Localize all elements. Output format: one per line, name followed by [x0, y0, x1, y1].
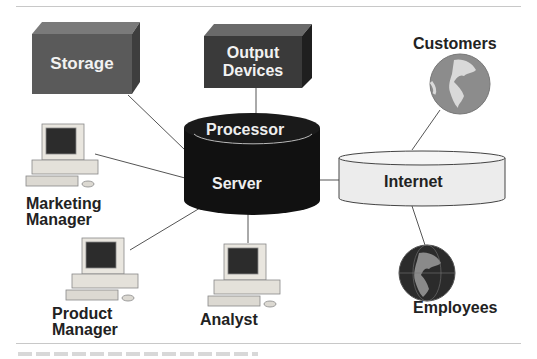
customers-globe-icon	[428, 52, 492, 116]
internet-cylinder: Internet	[338, 150, 506, 208]
storage-label: Storage	[50, 55, 113, 74]
output-label-line2: Devices	[223, 62, 284, 80]
processor-label: Processor	[206, 122, 284, 138]
analyst-label: Analyst	[200, 312, 258, 328]
storage-box: Storage	[28, 22, 140, 94]
analyst-computer-icon	[200, 242, 284, 314]
product-manager-label-line2: Manager	[52, 322, 118, 338]
product-manager-label-line1: Product	[52, 306, 112, 322]
marketing-manager-computer-icon	[18, 122, 102, 194]
server-label: Server	[212, 176, 262, 192]
product-manager-computer-icon	[58, 236, 142, 308]
employees-label: Employees	[413, 300, 497, 316]
output-label-line1: Output	[227, 44, 279, 62]
internet-label: Internet	[384, 174, 443, 190]
server-cylinder: Processor Server	[182, 112, 322, 216]
marketing-manager-label-line1: Marketing	[26, 196, 102, 212]
output-devices-box: Output Devices	[202, 22, 312, 88]
customers-label: Customers	[413, 36, 497, 52]
marketing-manager-label-line2: Manager	[26, 212, 92, 228]
employees-globe-icon	[397, 243, 457, 303]
